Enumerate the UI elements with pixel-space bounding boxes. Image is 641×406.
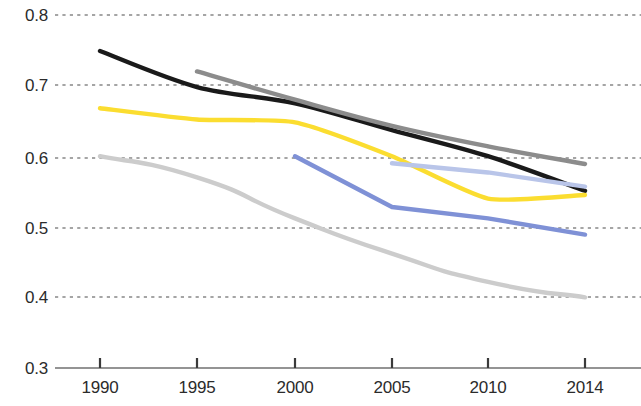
x-tick-label-0: 1990 xyxy=(60,379,140,396)
x-tick-label-4: 2010 xyxy=(448,379,528,396)
x-axis-labels: 1990 1995 2000 2005 2010 2014 xyxy=(0,0,641,406)
x-tick-label-2: 2000 xyxy=(255,379,335,396)
x-tick-label-5: 2014 xyxy=(545,379,625,396)
x-tick-label-1: 1995 xyxy=(157,379,237,396)
line-chart: 0.8 0.7 0.6 0.5 0.4 0.3 1990 1995 2000 2… xyxy=(0,0,641,406)
x-tick-label-3: 2005 xyxy=(352,379,432,396)
